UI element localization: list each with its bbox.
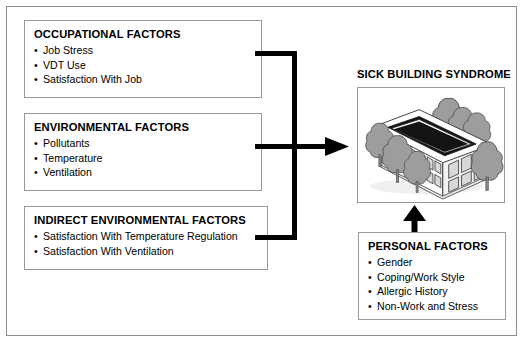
office-building-icon [358, 88, 504, 202]
connector-stub-occupational [255, 51, 297, 56]
list-item-label: Coping/Work Style [377, 271, 465, 283]
list-item: •Satisfaction With Temperature Regulatio… [34, 229, 258, 244]
list-item: •Coping/Work Style [368, 270, 496, 285]
bullet-icon: • [34, 58, 38, 73]
bullet-icon: • [34, 43, 38, 58]
diagram-canvas: OCCUPATIONAL FACTORS •Job Stress •VDT Us… [0, 0, 527, 346]
box-personal-title: PERSONAL FACTORS [368, 239, 496, 253]
connector-personal-to-outcome [402, 205, 428, 233]
box-personal-factors: PERSONAL FACTORS •Gender •Coping/Work St… [358, 232, 506, 320]
box-personal-list: •Gender •Coping/Work Style •Allergic His… [368, 255, 496, 313]
bullet-icon: • [34, 151, 38, 166]
bullet-icon: • [34, 244, 38, 259]
list-item-label: VDT Use [43, 59, 86, 71]
list-item: •Non-Work and Stress [368, 299, 496, 314]
list-item-label: Allergic History [377, 285, 448, 297]
list-item: •Allergic History [368, 284, 496, 299]
list-item-label: Ventilation [43, 166, 92, 178]
right-arrow-icon [325, 137, 349, 156]
bullet-icon: • [368, 299, 372, 314]
box-environmental-list: •Pollutants •Temperature •Ventilation [34, 136, 252, 180]
list-item-label: Satisfaction With Ventilation [43, 245, 174, 257]
connector-factors-to-outcome [255, 42, 350, 247]
box-environmental-factors: ENVIRONMENTAL FACTORS •Pollutants •Tempe… [24, 113, 262, 191]
list-item: •Satisfaction With Ventilation [34, 244, 258, 259]
box-environmental-title: ENVIRONMENTAL FACTORS [34, 120, 252, 134]
bullet-icon: • [34, 136, 38, 151]
list-item-label: Gender [377, 256, 412, 268]
list-item-label: Satisfaction With Job [43, 73, 142, 85]
connector-stub-environmental [255, 144, 297, 149]
bullet-icon: • [368, 270, 372, 285]
list-item: •Temperature [34, 151, 252, 166]
list-item: •Gender [368, 255, 496, 270]
bullet-icon: • [34, 72, 38, 87]
list-item: •Ventilation [34, 165, 252, 180]
box-indirect-title: INDIRECT ENVIRONMENTAL FACTORS [34, 213, 258, 227]
outcome-illustration-panel [357, 87, 505, 203]
list-item-label: Job Stress [43, 44, 93, 56]
box-indirect-environmental-factors: INDIRECT ENVIRONMENTAL FACTORS •Satisfac… [24, 206, 268, 270]
connector-stub-indirect [255, 235, 297, 240]
list-item: •Pollutants [34, 136, 252, 151]
box-occupational-title: OCCUPATIONAL FACTORS [34, 27, 252, 41]
connector-arrow-shaft [292, 144, 329, 149]
box-occupational-list: •Job Stress •VDT Use •Satisfaction With … [34, 43, 252, 87]
list-item: •VDT Use [34, 58, 252, 73]
list-item: •Satisfaction With Job [34, 72, 252, 87]
bullet-icon: • [368, 284, 372, 299]
box-occupational-factors: OCCUPATIONAL FACTORS •Job Stress •VDT Us… [24, 20, 262, 98]
bullet-icon: • [368, 255, 372, 270]
box-indirect-list: •Satisfaction With Temperature Regulatio… [34, 229, 258, 258]
list-item-label: Non-Work and Stress [377, 300, 478, 312]
list-item-label: Pollutants [43, 137, 90, 149]
list-item-label: Temperature [43, 152, 102, 164]
up-arrow-icon [403, 205, 426, 221]
list-item-label: Satisfaction With Temperature Regulation [43, 230, 238, 242]
bullet-icon: • [34, 229, 38, 244]
list-item: •Job Stress [34, 43, 252, 58]
bullet-icon: • [34, 165, 38, 180]
outcome-title: SICK BUILDING SYNDROME [357, 68, 511, 80]
